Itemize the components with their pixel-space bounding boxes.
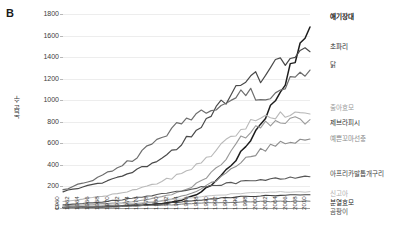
x-tick-label: 1976 [132,196,139,210]
series-label: 애기장대 [330,13,354,20]
series-line [63,27,310,208]
y-axis-title: 논문 수 [14,96,28,119]
y-tick-label: 200 [47,182,59,190]
x-tick-label: 1986 [182,196,189,210]
y-tick-label: 1600 [43,32,59,40]
y-tick-label: 400 [47,161,59,169]
x-tick-label: 1980 [152,196,159,210]
x-tick-label: 2006 [281,196,288,210]
series-label: 닭 [330,61,336,68]
x-tick-label: 1992 [211,196,218,210]
x-tick-label: 1982 [162,196,169,210]
x-tick-label: 1988 [192,196,199,210]
y-tick-label: 800 [47,118,59,126]
series-label: 아프리카발톱개구리 [330,170,384,177]
x-tick-label: 1994 [221,196,228,210]
y-tick-label: 1800 [43,10,59,18]
x-tick-label: 1990 [202,196,209,210]
series-line [63,112,310,202]
x-tick-label: 2002 [261,196,268,210]
x-tick-label: 1978 [142,196,149,210]
x-tick-label: 2010 [300,196,307,210]
y-tick-label: 600 [47,139,59,147]
y-tick-label: 1000 [43,96,59,104]
x-tick-label: 1960 [53,196,60,210]
series-label: 제브라피시 [330,119,360,126]
x-tick-label: 1962 [63,196,70,210]
x-tick-label: 1968 [93,196,100,210]
series-label: 분열효모 [330,199,354,206]
x-tick-label: 1964 [73,196,80,210]
x-tick-label: 1974 [123,196,130,210]
plot-area: 020040060080010001200140016001800 [63,14,310,208]
x-tick-label: 1998 [241,196,248,210]
series-label: 곰팡이 [330,208,348,215]
series-label: 예쁜꼬마선충 [330,135,366,142]
series-lines [63,14,310,208]
series-line [63,70,310,190]
x-tick-label: 1984 [172,196,179,210]
x-tick-label: 2004 [271,196,278,210]
y-tick-label: 1200 [43,75,59,83]
series-label: 출아효모 [330,104,354,111]
x-tick-label: 1996 [231,196,238,210]
chart-figure: B 논문 수 020040060080010001200140016001800… [0,0,398,251]
x-tick-label: 2008 [291,196,298,210]
x-tick-label: 1972 [113,196,120,210]
series-label: 신고아 [330,190,348,197]
x-tick-label: 1966 [83,196,90,210]
series-label: 초파리 [330,43,348,50]
x-tick-label: 2000 [251,196,258,210]
x-tick-label: 1970 [103,196,110,210]
y-tick-label: 1400 [43,53,59,61]
panel-label-b: B [6,7,14,19]
